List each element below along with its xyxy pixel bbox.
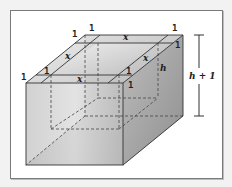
label-x: x <box>64 51 71 61</box>
label-x: x <box>76 74 83 84</box>
label-one: 1 <box>44 66 49 76</box>
label-x: x <box>142 53 149 63</box>
label-one: 1 <box>21 72 26 82</box>
label-one: 1 <box>172 23 177 33</box>
label-h: h <box>160 63 167 73</box>
label-h-plus-1: h + 1 <box>189 71 216 81</box>
label-one: 1 <box>126 66 131 76</box>
label-one: 1 <box>128 80 133 90</box>
label-one: 1 <box>72 29 77 39</box>
label-one: 1 <box>175 40 180 50</box>
label-x: x <box>122 32 129 42</box>
box-diagram: 1 1 1 1 1 1 1 1 x x x x h h + 1 <box>0 0 232 187</box>
label-one: 1 <box>89 23 94 33</box>
